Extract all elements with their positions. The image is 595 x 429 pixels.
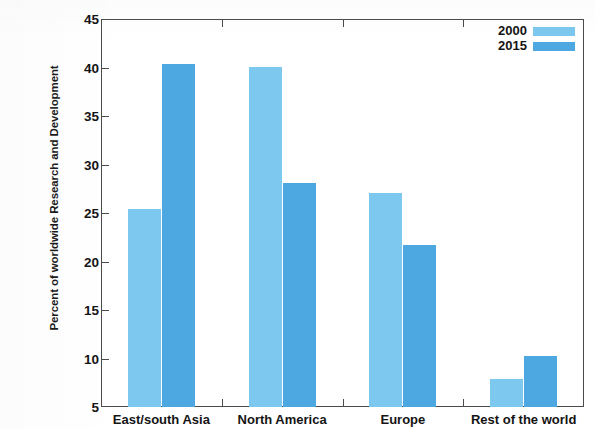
- y-axis-tick-labels: 51015202530354045: [0, 0, 99, 429]
- bar-2000-3: [490, 379, 523, 407]
- y-tick-label: 25: [39, 206, 99, 221]
- y-tick-mark: [101, 116, 109, 117]
- legend-swatch-2000: [533, 27, 575, 36]
- bar-chart: Percent of worldwide Research and Develo…: [0, 0, 595, 429]
- bar-2000-0: [128, 209, 161, 407]
- x-category-label: Rest of the world: [471, 412, 576, 427]
- legend-item-2000: 2000: [498, 24, 575, 38]
- y-tick-mark: [101, 213, 109, 214]
- y-tick-label: 30: [39, 157, 99, 172]
- y-tick-label: 15: [39, 303, 99, 318]
- y-tick-label: 20: [39, 254, 99, 269]
- bar-2015-0: [162, 64, 195, 407]
- x-tick-mark-bottom: [463, 399, 464, 407]
- bar-2000-2: [369, 193, 402, 407]
- y-tick-label: 40: [39, 60, 99, 75]
- x-tick-mark-top: [222, 19, 223, 27]
- y-tick-mark: [101, 359, 109, 360]
- bar-2000-1: [249, 67, 282, 407]
- x-tick-mark-top: [463, 19, 464, 27]
- y-tick-mark: [101, 262, 109, 263]
- y-tick-label: 45: [39, 12, 99, 27]
- x-category-label: East/south Asia: [113, 412, 210, 427]
- y-tick-mark: [101, 310, 109, 311]
- y-tick-mark: [101, 68, 109, 69]
- x-category-label: Europe: [380, 412, 425, 427]
- bar-2015-1: [283, 183, 316, 407]
- x-tick-mark-top: [343, 19, 344, 27]
- x-tick-mark-bottom: [222, 399, 223, 407]
- x-tick-mark-bottom: [343, 399, 344, 407]
- x-category-label: North America: [238, 412, 327, 427]
- bar-2015-3: [524, 356, 557, 407]
- bar-2015-2: [403, 245, 436, 407]
- y-tick-label: 35: [39, 109, 99, 124]
- y-tick-mark: [101, 165, 109, 166]
- legend: 2000 2015: [498, 24, 575, 53]
- y-tick-label: 5: [39, 400, 99, 415]
- y-tick-label: 10: [39, 351, 99, 366]
- plot-area: [101, 19, 584, 407]
- legend-label-2015: 2015: [498, 39, 527, 53]
- legend-item-2015: 2015: [498, 39, 575, 53]
- legend-label-2000: 2000: [498, 24, 527, 38]
- legend-swatch-2015: [533, 42, 575, 51]
